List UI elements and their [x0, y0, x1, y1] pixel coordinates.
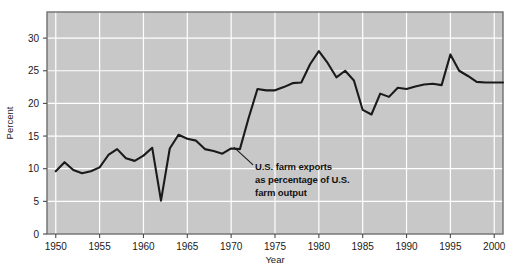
series-annotation: U.S. farm exports as percentage of U.S. …: [255, 160, 350, 199]
x-tick-label-1960: 1960: [132, 241, 155, 252]
x-tick-label-1995: 1995: [439, 241, 462, 252]
x-tick-label-1950: 1950: [45, 241, 68, 252]
y-tick-label-30: 30: [28, 33, 40, 44]
x-axis-title: Year: [265, 254, 284, 265]
annotation-line-2: as percentage of U.S.: [255, 173, 350, 186]
y-axis-ticks: 051015202530: [28, 33, 47, 240]
x-tick-label-1965: 1965: [176, 241, 199, 252]
y-tick-label-5: 5: [33, 196, 39, 207]
annotation-line-3: farm output: [255, 186, 350, 199]
x-tick-label-2000: 2000: [483, 241, 506, 252]
x-tick-label-1985: 1985: [352, 241, 375, 252]
x-tick-label-1980: 1980: [308, 241, 331, 252]
y-tick-label-0: 0: [33, 229, 39, 240]
x-axis-ticks: 1950195519601965197019751980198519901995…: [45, 234, 506, 252]
y-tick-label-25: 25: [28, 65, 40, 76]
chart-figure: 051015202530 195019551960196519701975198…: [0, 0, 520, 275]
y-tick-label-10: 10: [28, 163, 40, 174]
y-tick-label-20: 20: [28, 98, 40, 109]
annotation-line-1: U.S. farm exports: [255, 160, 350, 173]
x-tick-label-1970: 1970: [220, 241, 243, 252]
x-tick-label-1990: 1990: [395, 241, 418, 252]
x-tick-label-1975: 1975: [264, 241, 287, 252]
y-tick-label-15: 15: [28, 131, 40, 142]
y-axis-title: Percent: [4, 106, 15, 139]
line-chart-canvas: 051015202530 195019551960196519701975198…: [0, 0, 520, 275]
x-tick-label-1955: 1955: [88, 241, 111, 252]
